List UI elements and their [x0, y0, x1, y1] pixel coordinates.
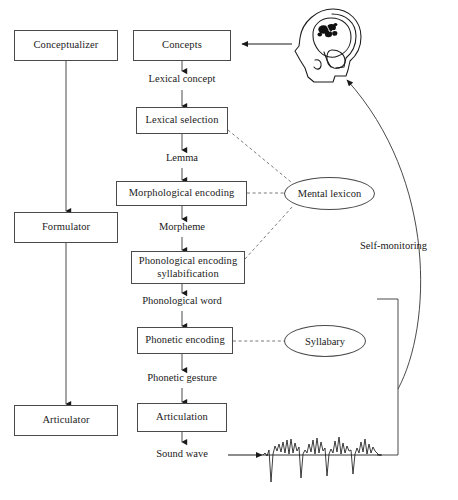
brain-activation-blob [318, 23, 338, 37]
node-formulator[interactable]: Formulator [14, 212, 118, 243]
node-mental-lexicon[interactable]: Mental lexicon [284, 177, 375, 210]
node-syllabary[interactable]: Syllabary [284, 325, 366, 357]
node-phonological-encoding-label-line1: Phonological encoding [139, 255, 238, 267]
head-brain-icon [286, 6, 370, 88]
node-conceptualizer[interactable]: Conceptualizer [14, 30, 118, 61]
node-phonetic-encoding[interactable]: Phonetic encoding [137, 327, 233, 354]
node-concepts-label: Concepts [162, 39, 202, 51]
edge-label-phonetic-gesture: Phonetic gesture [132, 372, 232, 383]
speech-production-diagram: Conceptualizer Formulator Articulator Co… [0, 0, 458, 500]
node-articulator[interactable]: Articulator [14, 405, 118, 436]
node-articulation[interactable]: Articulation [137, 403, 227, 432]
node-syllabary-label: Syllabary [305, 336, 345, 347]
annotation-self-monitoring: Self-monitoring [360, 240, 427, 251]
link-lexical-selection-to-mental-lexicon [228, 130, 291, 182]
sound-waveform-icon [262, 420, 382, 490]
edge-label-lemma: Lemma [142, 152, 222, 163]
edge-label-phonological-word: Phonological word [124, 295, 240, 306]
node-morphological-encoding[interactable]: Morphological encoding [116, 181, 247, 206]
node-morphological-encoding-label: Morphological encoding [129, 187, 235, 199]
edge-label-morpheme: Morpheme [142, 221, 222, 232]
node-articulator-label: Articulator [42, 414, 89, 426]
node-phonological-encoding[interactable]: Phonological encoding syllabification [131, 251, 245, 284]
edge-label-sound-wave: Sound wave [142, 448, 222, 459]
node-lexical-selection[interactable]: Lexical selection [136, 107, 228, 134]
node-phonetic-encoding-label: Phonetic encoding [145, 334, 225, 346]
node-phonological-encoding-label-line2: syllabification [157, 268, 219, 280]
node-lexical-selection-label: Lexical selection [145, 114, 218, 126]
edge-label-lexical-concept: Lexical concept [132, 73, 232, 84]
node-formulator-label: Formulator [42, 221, 90, 233]
node-concepts[interactable]: Concepts [133, 30, 231, 61]
node-mental-lexicon-label: Mental lexicon [298, 188, 361, 199]
node-articulation-label: Articulation [156, 411, 208, 423]
node-conceptualizer-label: Conceptualizer [34, 39, 99, 51]
link-phonological-encoding-to-mental-lexicon [245, 206, 293, 259]
